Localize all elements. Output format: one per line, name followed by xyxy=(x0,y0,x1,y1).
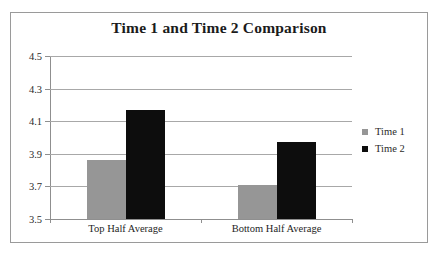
bar-time-1-bottom-half-average[interactable] xyxy=(238,185,277,219)
y-axis-tick-mark xyxy=(45,121,50,122)
y-axis-tick-mark xyxy=(45,186,50,187)
legend-swatch-icon xyxy=(362,129,368,135)
bar-time-2-top-half-average[interactable] xyxy=(126,110,165,219)
legend-swatch-icon xyxy=(362,146,368,152)
x-axis-label-bottom-half-average: Bottom Half Average xyxy=(201,223,352,234)
y-axis-tick-label: 3.9 xyxy=(2,148,42,159)
gridline xyxy=(50,89,352,90)
bar-time-1-top-half-average[interactable] xyxy=(87,160,126,219)
y-axis-tick-label: 4.1 xyxy=(2,116,42,127)
chart-title: Time 1 and Time 2 Comparison xyxy=(11,19,427,37)
chart-legend: Time 1Time 2 xyxy=(362,124,432,158)
legend-label: Time 1 xyxy=(375,126,405,137)
plot-area xyxy=(50,56,352,219)
legend-item-time-1[interactable]: Time 1 xyxy=(362,124,432,139)
y-axis-tick-labels: 4.54.34.13.93.73.5 xyxy=(0,0,42,254)
y-axis-tick-label: 4.3 xyxy=(2,83,42,94)
bar-time-2-bottom-half-average[interactable] xyxy=(277,142,316,219)
x-axis-label-top-half-average: Top Half Average xyxy=(50,223,201,234)
x-axis-tick-mark xyxy=(352,219,353,223)
x-axis-tick-mark xyxy=(50,219,51,223)
y-axis-tick-label: 3.5 xyxy=(2,214,42,225)
legend-label: Time 2 xyxy=(375,143,405,154)
y-axis-tick-label: 3.7 xyxy=(2,181,42,192)
y-axis-tick-label: 4.5 xyxy=(2,51,42,62)
gridline xyxy=(50,56,352,57)
gridline xyxy=(50,121,352,122)
y-axis-tick-mark xyxy=(45,154,50,155)
y-axis-tick-mark xyxy=(45,56,50,57)
legend-item-time-2[interactable]: Time 2 xyxy=(362,141,432,156)
y-axis-tick-mark xyxy=(45,89,50,90)
